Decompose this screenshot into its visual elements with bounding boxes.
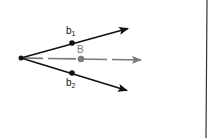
origin-point [19,56,24,61]
divider-line [206,0,207,138]
label-B: B [77,44,84,55]
label-b2: b2 [66,77,76,89]
point-b1 [69,40,75,46]
point-B [78,56,85,63]
vector-diagram: b1 B b2 [0,0,212,138]
point-b2 [69,70,75,76]
label-b1: b1 [66,25,76,37]
